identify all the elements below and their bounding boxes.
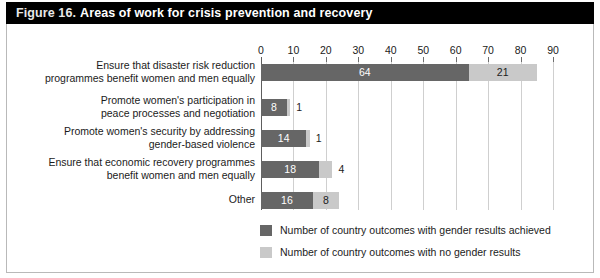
bar-segment-achieved: 8	[261, 99, 287, 116]
legend-item: Number of country outcomes with gender r…	[260, 224, 551, 236]
bar-row: 184	[261, 161, 553, 178]
bar-value-label: 1	[296, 99, 302, 116]
bar-segment-no-results	[306, 130, 309, 147]
category-label-text: Ensure that economic recovery programmes…	[30, 156, 255, 181]
x-axis-tick-label: 60	[450, 44, 462, 56]
legend-swatch-dark	[260, 225, 272, 236]
bar-row: 81	[261, 99, 553, 116]
bar-value-label: 14	[278, 133, 290, 144]
bar-segment-achieved: 14	[261, 130, 306, 147]
x-axis-tick	[423, 57, 424, 62]
bar-segment-no-results: 21	[469, 64, 537, 81]
x-axis-tick-label: 30	[352, 44, 364, 56]
bar-value-label: 4	[338, 161, 344, 178]
x-axis-tick	[293, 57, 294, 62]
category-label-text: Promote women's security by addressing g…	[30, 125, 255, 150]
bar-segment-achieved: 18	[261, 161, 319, 178]
bar-value-label: 1	[316, 130, 322, 147]
x-axis-tick	[456, 57, 457, 62]
category-label-text: Other	[30, 193, 255, 206]
bar-chart: 0102030405060708090Ensure that disaster …	[0, 0, 600, 278]
bar-segment-achieved: 64	[261, 64, 469, 81]
figure-container: Figure 16. Areas of work for crisis prev…	[0, 0, 600, 278]
x-axis-tick	[326, 57, 327, 62]
bar-row: 168	[261, 192, 553, 209]
x-axis-tick	[391, 57, 392, 62]
category-label: Ensure that economic recovery programmes…	[30, 156, 255, 181]
x-axis-tick-label: 0	[258, 44, 264, 56]
legend-label: Number of country outcomes with no gende…	[280, 246, 520, 258]
bar-value-label: 21	[497, 67, 509, 78]
x-axis-tick-label: 80	[515, 44, 527, 56]
x-axis-tick-label: 20	[320, 44, 332, 56]
bar-segment-no-results	[287, 99, 290, 116]
x-axis-tick-label: 90	[547, 44, 559, 56]
bar-row: 141	[261, 130, 553, 147]
category-label-text: Promote women's participation in peace p…	[30, 94, 255, 119]
bar-row: 6421	[261, 64, 553, 81]
category-label-text: Ensure that disaster risk reduction prog…	[30, 59, 255, 84]
gridline	[553, 57, 554, 210]
category-label: Other	[30, 193, 255, 206]
bar-value-label: 8	[323, 195, 329, 206]
legend-item: Number of country outcomes with no gende…	[260, 246, 520, 258]
legend-swatch-light	[260, 247, 272, 258]
x-axis-tick	[553, 57, 554, 62]
x-axis-tick-label: 70	[482, 44, 494, 56]
bar-value-label: 8	[271, 102, 277, 113]
bar-value-label: 18	[284, 164, 296, 175]
bar-segment-no-results: 8	[313, 192, 339, 209]
x-axis-tick	[488, 57, 489, 62]
x-axis-tick-label: 50	[417, 44, 429, 56]
bar-segment-achieved: 16	[261, 192, 313, 209]
category-label: Promote women's security by addressing g…	[30, 125, 255, 150]
bar-value-label: 16	[281, 195, 293, 206]
category-label: Promote women's participation in peace p…	[30, 94, 255, 119]
bar-segment-no-results	[319, 161, 332, 178]
bar-value-label: 64	[359, 67, 371, 78]
legend-label: Number of country outcomes with gender r…	[280, 224, 551, 236]
x-axis-tick	[521, 57, 522, 62]
x-axis-tick	[358, 57, 359, 62]
category-label: Ensure that disaster risk reduction prog…	[30, 59, 255, 84]
x-axis-tick-label: 10	[288, 44, 300, 56]
x-axis-tick-label: 40	[385, 44, 397, 56]
